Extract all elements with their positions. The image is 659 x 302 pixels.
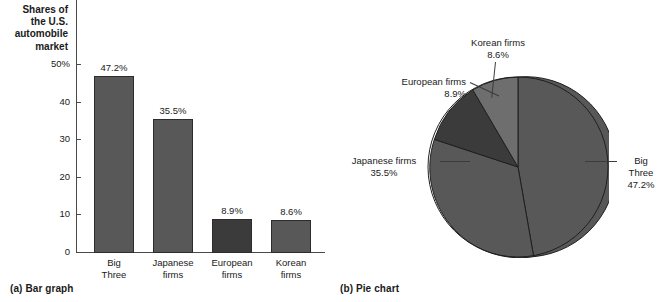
pie-chart-caption: (b) Pie chart [340,283,399,294]
y-tick-label-50: 50% [34,59,70,69]
pie-label-big-three: Big Three 47.2% [620,155,659,191]
y-axis-title-line-1: Shares of [0,4,68,16]
bar-graph-panel: Shares of the U.S. automobile market 50%… [0,0,330,302]
y-axis-title-line-4: market [0,41,68,53]
y-tick-mark-20 [76,177,81,178]
pie-label-japanese-firms: Japanese firms 35.5% [334,155,434,179]
bar-european-firms[interactable] [212,219,252,253]
pie-label-korean-firms-name: Korean firms [458,37,538,49]
bar-graph-caption: (a) Bar graph [10,283,74,294]
x-label-korean-firms: Korean firms [256,257,326,281]
bar-value-japanese-firms: 35.5% [143,105,203,116]
pie-slice-big-three[interactable] [518,77,609,257]
bar-japanese-firms[interactable] [153,119,193,253]
bar-value-big-three: 47.2% [84,62,144,73]
y-tick-label-0: 0 [34,247,70,257]
bar-korean-firms[interactable] [271,220,311,253]
pie-label-korean-firms: Korean firms 8.6% [458,37,538,61]
y-axis-title-line-3: automobile [0,28,68,40]
y-tick-mark-30 [76,139,81,140]
pie-chart-svg [427,76,609,258]
y-tick-mark-40 [76,102,81,103]
pie-chart [427,76,609,258]
pie-label-big-three-line-2: Three [620,167,659,179]
y-tick-label-40: 40 [34,97,70,107]
pie-label-big-three-line-1: Big [620,155,659,167]
pie-chart-panel: Korean firms 8.6% European firms 8.9% Ja… [330,0,659,302]
y-tick-mark-50 [76,64,81,65]
pie-label-european-firms: European firms 8.9% [362,76,466,100]
pie-label-korean-firms-value: 8.6% [458,49,538,61]
y-tick-label-20: 20 [34,172,70,182]
pie-label-japanese-firms-name: Japanese firms [334,155,434,167]
pie-label-european-firms-value: 8.9% [362,88,466,100]
y-tick-label-30: 30 [34,134,70,144]
bar-value-european-firms: 8.9% [202,205,262,216]
y-axis-line [76,0,77,253]
y-axis-title-line-2: the U.S. [0,16,68,28]
x-label-korean-firms-line-1: Korean [256,257,326,269]
bar-value-korean-firms: 8.6% [261,206,321,217]
pie-label-european-firms-name: European firms [362,76,466,88]
leader-line-japanese-firms [440,161,470,162]
y-axis-title: Shares of the U.S. automobile market [0,4,68,53]
leader-line-big-three [585,161,617,162]
pie-label-japanese-firms-value: 35.5% [334,167,434,179]
y-tick-label-10: 10 [34,209,70,219]
y-tick-mark-10 [76,214,81,215]
bar-big-three[interactable] [94,76,134,253]
x-label-korean-firms-line-2: firms [256,269,326,281]
pie-label-big-three-value: 47.2% [620,179,659,191]
